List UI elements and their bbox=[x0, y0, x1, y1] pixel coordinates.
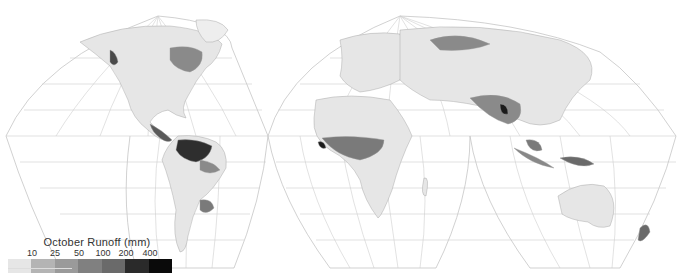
north-america bbox=[80, 26, 222, 140]
legend-swatch bbox=[78, 259, 101, 273]
legend-title: October Runoff (mm) bbox=[18, 236, 176, 248]
legend-swatch bbox=[31, 259, 54, 273]
legend-swatch bbox=[8, 259, 31, 273]
legend-tick: 50 bbox=[74, 248, 84, 258]
world-runoff-map bbox=[0, 0, 681, 273]
legend-swatch bbox=[149, 259, 172, 273]
legend-tick: 400 bbox=[142, 248, 157, 258]
divider bbox=[8, 268, 72, 269]
legend-swatch bbox=[102, 259, 125, 273]
legend-tick: 100 bbox=[95, 248, 110, 258]
legend-tick: 200 bbox=[118, 248, 133, 258]
europe bbox=[340, 33, 405, 92]
legend-color-bar bbox=[8, 259, 172, 273]
legend-tick: 25 bbox=[50, 248, 60, 258]
legend-ticks: 10 25 50 100 200 400 bbox=[8, 248, 176, 259]
legend-tick: 10 bbox=[27, 248, 37, 258]
australia bbox=[558, 184, 614, 227]
legend-swatch bbox=[125, 259, 148, 273]
legend-swatch bbox=[55, 259, 78, 273]
